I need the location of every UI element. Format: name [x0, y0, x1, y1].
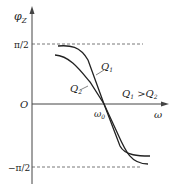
- phase-frequency-diagram: φZ π/2 O −π/2 ω ω0 Q1 Q2 Q1 >Q2: [0, 0, 175, 185]
- omega0-label: ω0: [94, 109, 105, 120]
- neg-pi-half-label: −π/2: [8, 163, 30, 173]
- q1-label: Q1: [101, 61, 113, 73]
- origin-label: O: [20, 99, 28, 110]
- pi-half-label: π/2: [14, 40, 29, 50]
- relation-label: Q1 >Q2: [122, 88, 158, 100]
- x-axis-arrow-icon: [161, 102, 169, 107]
- x-axis-label: ω: [154, 109, 162, 120]
- y-axis-label: φZ: [14, 10, 27, 25]
- q2-label: Q2: [70, 83, 82, 95]
- y-axis-arrow-icon: [30, 6, 35, 14]
